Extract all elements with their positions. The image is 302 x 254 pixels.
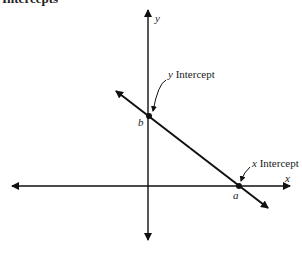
x-axis-label: x <box>284 172 290 184</box>
b-label: b <box>138 116 144 128</box>
intercept-diagram: y x y Intercept x Intercept b a <box>0 0 302 254</box>
y-axis-label: y <box>154 12 160 24</box>
x-intercept-callout <box>241 167 250 181</box>
x-intercept-label: x Intercept <box>251 157 299 169</box>
a-label: a <box>233 189 239 201</box>
line-graph <box>116 91 190 148</box>
y-intercept-label: y Intercept <box>167 68 215 80</box>
y-intercept-callout <box>153 80 166 111</box>
y-intercept-point <box>146 113 152 119</box>
